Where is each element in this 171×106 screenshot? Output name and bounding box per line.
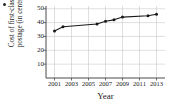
data-point-marker — [53, 29, 56, 32]
data-point-marker — [147, 14, 150, 17]
data-point-marker — [96, 23, 99, 26]
y-axis-tick-labels: 1020304050 — [26, 6, 44, 78]
y-tick-label: 30 — [28, 33, 44, 40]
y-axis-title: Cost of first-class postage (in cents) — [9, 0, 25, 57]
y-tick-label: 20 — [28, 47, 44, 54]
data-point-marker — [155, 13, 158, 16]
data-point-marker — [121, 16, 124, 19]
y-tick-label: 10 — [28, 61, 44, 68]
data-point-marker — [113, 18, 116, 21]
postage-cost-line-chart: Cost of first-class postage (in cents) 1… — [0, 0, 171, 106]
y-tick-label: 50 — [28, 5, 44, 12]
x-axis-tick-labels: 2001200320052007200920112013 — [46, 80, 165, 90]
plot-area — [46, 6, 165, 78]
x-axis-title: Year — [46, 91, 165, 102]
data-point-marker — [62, 25, 65, 28]
data-point-marker — [104, 20, 107, 23]
scan-artifact-dot — [3, 3, 6, 6]
x-tick-label: 2013 — [146, 80, 168, 88]
plot-svg — [46, 6, 165, 78]
y-axis-title-line-2: postage (in cents) — [17, 0, 25, 57]
y-tick-label: 40 — [28, 19, 44, 26]
